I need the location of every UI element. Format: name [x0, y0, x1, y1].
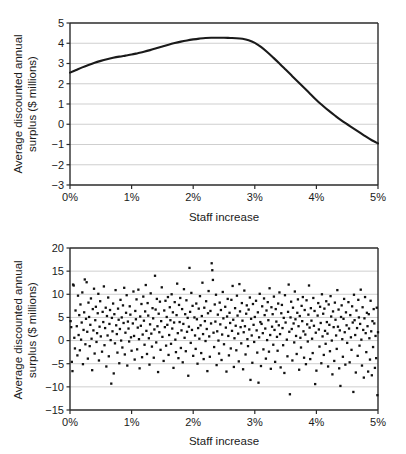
scatter-point	[288, 331, 290, 333]
scatter-point	[113, 313, 115, 315]
scatter-point	[161, 286, 163, 288]
scatter-point	[170, 293, 172, 295]
scatter-point	[141, 356, 143, 358]
scatter-point	[90, 297, 92, 299]
scatter-point	[146, 302, 148, 304]
scatter-point	[300, 305, 302, 307]
scatter-point	[230, 299, 232, 301]
x-tick-label: 2%	[185, 416, 201, 428]
scatter-point	[343, 298, 345, 300]
scatter-point	[252, 303, 254, 305]
scatter-point	[262, 348, 264, 350]
scatter-point	[355, 371, 357, 373]
scatter-point	[374, 335, 376, 337]
scatter-point	[319, 306, 321, 308]
scatter-point	[156, 325, 158, 327]
y-tick-label: −10	[45, 381, 64, 393]
scatter-point	[212, 279, 214, 281]
tick-marks	[67, 23, 379, 189]
scatter-point	[185, 299, 187, 301]
scatter-point	[370, 330, 372, 332]
scatter-point	[258, 336, 260, 338]
scatter-point	[324, 343, 326, 345]
scatter-point	[256, 351, 258, 353]
scatter-point	[152, 317, 154, 319]
scatter-point	[102, 321, 104, 323]
scatter-point	[289, 393, 291, 395]
x-tick-label: 1%	[124, 191, 140, 203]
scatter-point	[299, 337, 301, 339]
scatter-point	[365, 351, 367, 353]
scatter-point	[358, 316, 360, 318]
scatter-point	[241, 302, 243, 304]
x-tick-label: 0%	[62, 416, 78, 428]
scatter-point	[307, 314, 309, 316]
scatter-point	[237, 332, 239, 334]
scatter-point	[114, 342, 116, 344]
scatter-point	[270, 368, 272, 370]
scatter-point	[159, 301, 161, 303]
scatter-point	[337, 308, 339, 310]
scatter-point	[181, 308, 183, 310]
scatter-point	[193, 316, 195, 318]
scatter-point	[159, 349, 161, 351]
scatter-point	[356, 327, 358, 329]
x-tick-label: 1%	[124, 416, 140, 428]
scatter-point	[214, 320, 216, 322]
scatter-point	[104, 327, 106, 329]
scatter-point	[211, 262, 213, 264]
scatter-point	[191, 329, 193, 331]
x-tick-label: 0%	[62, 191, 78, 203]
scatter-point	[134, 358, 136, 360]
scatter-point	[199, 324, 201, 326]
scatter-point	[375, 357, 377, 359]
x-tick-label: 4%	[308, 416, 324, 428]
scatter-point	[95, 306, 97, 308]
scatter-point	[217, 339, 219, 341]
scatter-point	[281, 327, 283, 329]
scatter-point	[119, 328, 121, 330]
scatter-point	[176, 282, 178, 284]
scatter-point	[256, 329, 258, 331]
scatter-point	[318, 328, 320, 330]
scatter-point	[292, 307, 294, 309]
scatter-point	[85, 281, 87, 283]
scatter-point	[336, 289, 338, 291]
scatter-point	[349, 361, 351, 363]
y-tick-labels: −15−10−505101520	[45, 242, 64, 416]
scatter-point	[242, 368, 244, 370]
scatter-point	[240, 342, 242, 344]
scatter-point	[313, 310, 315, 312]
scatter-point	[96, 332, 98, 334]
scatter-point	[121, 346, 123, 348]
scatter-point	[236, 314, 238, 316]
scatter-point	[364, 296, 366, 298]
gridlines-horizontal	[70, 43, 378, 165]
scatter-point	[278, 324, 280, 326]
scatter-point	[173, 321, 175, 323]
y-axis-title-line2: surplus ($ millions)	[26, 282, 38, 378]
scatter-point	[183, 337, 185, 339]
y-tick-label: −2	[51, 159, 64, 171]
scatter-point	[156, 298, 158, 300]
scatter-point	[144, 310, 146, 312]
scatter-point	[188, 267, 190, 269]
scatter-point	[267, 319, 269, 321]
scatter-point	[166, 324, 168, 326]
scatter-point	[305, 363, 307, 365]
x-tick-label: 2%	[185, 191, 201, 203]
scatter-point	[169, 319, 171, 321]
scatter-point	[274, 361, 276, 363]
scatter-point	[167, 296, 169, 298]
scatter-point	[373, 322, 375, 324]
scatter-point	[372, 346, 374, 348]
scatter-point	[158, 313, 160, 315]
scatter-point	[91, 369, 93, 371]
y-tick-label: −15	[45, 404, 64, 416]
scatter-point	[145, 330, 147, 332]
scatter-point	[195, 302, 197, 304]
scatter-point	[174, 301, 176, 303]
scatter-point	[214, 303, 216, 305]
scatter-point	[371, 320, 373, 322]
scatter-point	[243, 331, 245, 333]
